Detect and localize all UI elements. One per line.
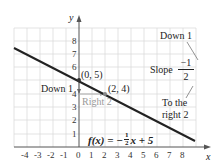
- equation-prefix: f(x) = −: [88, 134, 123, 146]
- x-tick: -4: [21, 151, 29, 160]
- x-tick: 8: [180, 151, 185, 160]
- callout-to-the: To the: [162, 98, 187, 108]
- down-arrow-icon: [77, 89, 81, 94]
- down-1-label: Down 1: [41, 84, 73, 94]
- point-label-0-5: (0, 5): [81, 70, 103, 80]
- slope-denominator: 2: [178, 72, 194, 82]
- y-tick: 7: [72, 50, 77, 59]
- x-tick: 1: [89, 151, 94, 160]
- x-tick: -2: [47, 151, 55, 160]
- point-label-2-4: (2, 4): [108, 84, 130, 94]
- x-tick: 4: [128, 151, 133, 160]
- y-tick: 6: [72, 63, 77, 72]
- y-axis-arrow-icon: [77, 15, 82, 22]
- y-tick: 2: [72, 116, 77, 125]
- x-axis-arrow-icon: [204, 145, 211, 150]
- equation-label: f(x) = − 1 2 x + 5: [88, 132, 153, 147]
- equation-denominator: 2: [125, 140, 129, 147]
- x-tick: 2: [102, 151, 107, 160]
- x-tick: 7: [167, 151, 172, 160]
- slope-label: Slope: [150, 65, 173, 75]
- y-tick: 3: [72, 103, 77, 112]
- x-tick: -3: [34, 151, 42, 160]
- y-tick: 8: [72, 37, 77, 46]
- x-tick: 6: [154, 151, 159, 160]
- equation-suffix: x + 5: [130, 134, 153, 146]
- x-tick: 3: [115, 151, 120, 160]
- x-tick: 5: [141, 151, 146, 160]
- x-tick: -1: [60, 151, 68, 160]
- x-axis-label: x: [206, 152, 210, 162]
- x-tick: 0: [76, 151, 81, 160]
- right-2-label: Right 2: [82, 97, 112, 107]
- y-tick: 1: [72, 130, 77, 139]
- leader-right: [186, 86, 193, 98]
- callout-down-1: Down 1: [160, 31, 192, 41]
- y-axis-label: y: [69, 13, 73, 23]
- slope-numerator: −1: [178, 58, 194, 70]
- callout-right-2: right 2: [162, 110, 188, 120]
